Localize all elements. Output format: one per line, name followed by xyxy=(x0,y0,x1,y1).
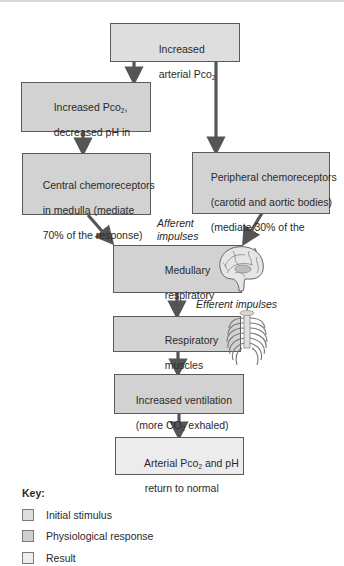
key-swatch xyxy=(22,509,34,521)
box-central-chemoreceptors: Central chemoreceptors in medulla (media… xyxy=(22,153,151,215)
box-csf-change: Increased Pco2, decreased pH in cerebros… xyxy=(21,82,151,132)
box-respiratory-muscles: Respiratory muscles xyxy=(113,316,241,352)
key-swatch xyxy=(22,530,34,542)
box-text: Arterial Pco2 and pH return to normal xyxy=(133,444,239,507)
box-text: Increased arterial Pco2 xyxy=(147,30,215,93)
afferent-impulses-label: Afferentimpulses xyxy=(157,217,198,242)
key-swatch xyxy=(22,552,34,564)
efferent-impulses-label: Efferent impulses xyxy=(196,298,277,311)
box-increased-arterial-pco2: Increased arterial Pco2 xyxy=(110,23,240,62)
ribcage-icon xyxy=(224,310,270,368)
key-title: Key: xyxy=(22,487,45,499)
box-text: Increased ventilation (more CO2 exhaled) xyxy=(124,381,232,444)
box-text: Central chemoreceptors in medulla (media… xyxy=(31,166,155,254)
box-increased-ventilation: Increased ventilation (more CO2 exhaled) xyxy=(114,374,244,414)
box-return-to-normal: Arterial Pco2 and pH return to normal xyxy=(115,437,244,475)
brain-icon xyxy=(215,243,267,293)
box-peripheral-chemoreceptors: Peripheral chemoreceptors (carotid and a… xyxy=(192,152,330,214)
